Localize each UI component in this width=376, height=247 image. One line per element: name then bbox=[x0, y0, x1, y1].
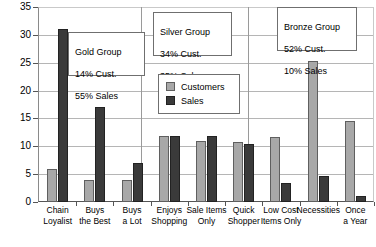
x-label-line1: Once bbox=[334, 205, 376, 216]
bar-customers-buys-a-lot bbox=[122, 180, 132, 202]
callout-bronze-customers: 52% Cust. bbox=[284, 44, 350, 55]
y-tick-label-35: 35 bbox=[5, 2, 31, 12]
callout-silver-customers: 34% Cust. bbox=[160, 49, 225, 60]
legend-label-customers: Customers bbox=[181, 82, 225, 92]
bar-sales-quick-shopper bbox=[244, 144, 254, 203]
legend: Customers Sales bbox=[158, 74, 240, 114]
y-tick-0 bbox=[33, 202, 38, 203]
callout-gold-group: Gold Group 14% Cust. 55% Sales bbox=[68, 32, 145, 76]
bar-customers-low-cost-items-only bbox=[270, 137, 280, 202]
bar-customers-sale-items-only bbox=[196, 141, 206, 202]
callout-bronze-title: Bronze Group bbox=[284, 22, 350, 33]
bar-sales-necessities bbox=[319, 176, 329, 202]
bar-sales-chain-loyalist bbox=[58, 29, 68, 202]
legend-item-sales: Sales bbox=[166, 94, 232, 107]
bar-customers-chain-loyalist bbox=[47, 169, 57, 202]
x-label-line2: a Year bbox=[334, 216, 376, 227]
bar-sales-low-cost-items-only bbox=[281, 183, 291, 203]
y-tick-label-20: 20 bbox=[5, 86, 31, 96]
bar-customers-enjoys-shopping bbox=[159, 136, 169, 202]
legend-swatch-sales-icon bbox=[166, 96, 175, 105]
x-axis-label-once-a-year: Oncea Year bbox=[334, 205, 376, 226]
bar-sales-enjoys-shopping bbox=[170, 136, 180, 202]
bar-sales-buys-the-best bbox=[95, 107, 105, 202]
callout-silver-title: Silver Group bbox=[160, 27, 225, 38]
callout-bronze-sales: 10% Sales bbox=[284, 66, 350, 77]
y-tick-label-15: 15 bbox=[5, 113, 31, 123]
callout-silver-group: Silver Group 34% Cust. 35% Sales bbox=[153, 12, 232, 56]
y-tick-label-25: 25 bbox=[5, 58, 31, 68]
bar-customers-buys-the-best bbox=[84, 180, 94, 202]
y-tick-label-5: 5 bbox=[5, 169, 31, 179]
callout-gold-title: Gold Group bbox=[75, 47, 138, 58]
bar-customers-quick-shopper bbox=[233, 142, 243, 202]
bar-sales-buys-a-lot bbox=[133, 163, 143, 202]
bar-sales-once-a-year bbox=[356, 196, 366, 202]
x-label-line2: Items Only bbox=[259, 216, 302, 227]
y-tick-label-10: 10 bbox=[5, 141, 31, 151]
callout-bronze-group: Bronze Group 52% Cust. 10% Sales bbox=[277, 7, 357, 51]
legend-label-sales: Sales bbox=[181, 96, 204, 106]
customer-segment-bar-chart: 05101520253035 ChainLoyalistBuysthe Best… bbox=[0, 0, 376, 247]
bar-customers-once-a-year bbox=[345, 121, 355, 202]
callout-gold-customers: 14% Cust. bbox=[75, 69, 138, 80]
bar-sales-sale-items-only bbox=[207, 136, 217, 202]
legend-swatch-customers-icon bbox=[166, 82, 175, 91]
y-tick-label-0: 0 bbox=[5, 197, 31, 207]
x-axis-labels: ChainLoyalistBuysthe BestBuysa LotEnjoys… bbox=[39, 205, 374, 235]
y-tick-label-30: 30 bbox=[5, 30, 31, 40]
callout-gold-sales: 55% Sales bbox=[75, 91, 138, 102]
legend-item-customers: Customers bbox=[166, 80, 232, 93]
